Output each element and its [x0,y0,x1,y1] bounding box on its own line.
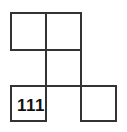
cell-r0-c1 [45,12,82,51]
cell-number-label: 111 [17,96,45,116]
cell-r2-c2 [80,85,117,122]
cell-r2-c0: 111 [10,85,47,122]
cell-r1-c1 [45,49,82,87]
cell-r0-c0 [10,12,47,51]
